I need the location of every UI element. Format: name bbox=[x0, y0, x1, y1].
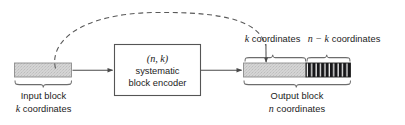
nk-coordinates-label: n − k coordinates bbox=[308, 33, 381, 46]
encoder-box-label: (n, k) systematic block encoder bbox=[108, 53, 208, 90]
output-block-shape bbox=[244, 63, 351, 77]
encoder-line-systematic: systematic bbox=[108, 65, 208, 77]
input-block-coordinates-word: coordinates bbox=[20, 104, 71, 114]
nk-coordinates-word: coordinates bbox=[329, 34, 380, 44]
systematic-block-encoder-diagram: (n, k) systematic block encoder Input bl… bbox=[0, 0, 405, 125]
output-parity-hatch-segment bbox=[306, 63, 351, 77]
input-block-caption-line1: Input block bbox=[16, 91, 72, 103]
output-block-caption-line1: Output block bbox=[269, 91, 325, 103]
k-coordinates-label: k coordinates bbox=[245, 33, 301, 46]
input-block-brace bbox=[15, 81, 72, 88]
output-block-caption-line2: n coordinates bbox=[269, 103, 325, 116]
input-block-shape bbox=[15, 63, 72, 77]
encoder-line-block-encoder: block encoder bbox=[108, 77, 208, 89]
nk-coordinates-n-minus-k-symbol: n − k bbox=[308, 33, 329, 44]
nk-coordinates-brace bbox=[307, 55, 350, 62]
output-block-caption: Output block n coordinates bbox=[269, 91, 325, 115]
input-block-caption: Input block k coordinates bbox=[16, 91, 72, 115]
input-block-caption-line2: k coordinates bbox=[16, 103, 72, 116]
k-coordinates-word: coordinates bbox=[249, 34, 300, 44]
output-block-coordinates-word: coordinates bbox=[274, 104, 325, 114]
output-block-brace bbox=[244, 81, 351, 88]
k-coordinates-brace bbox=[245, 55, 306, 62]
encoder-n-k-label: (n, k) bbox=[108, 53, 208, 65]
